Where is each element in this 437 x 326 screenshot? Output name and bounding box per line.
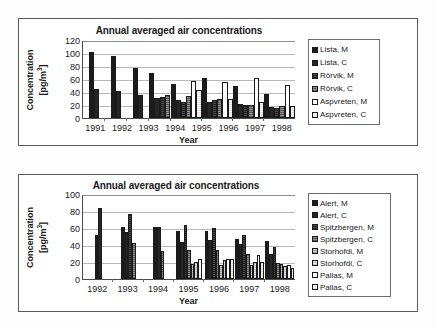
legend-swatch-icon — [312, 112, 318, 118]
bar — [116, 91, 121, 118]
y-axis-tick-label: 60 — [70, 224, 80, 234]
bars — [234, 195, 264, 279]
bars — [233, 41, 264, 118]
legend-label: Alert, C — [320, 211, 347, 220]
legend-swatch-icon — [312, 47, 318, 53]
x-axis-labels-bottom: 1992199319941995199619971998 — [82, 284, 295, 294]
x-axis-tick-label: 1991 — [82, 123, 109, 133]
legend-bottom: Alert, MAlert, CSpitzbergen, MSpitzberge… — [308, 193, 391, 297]
bar — [132, 243, 136, 279]
bars — [202, 41, 233, 118]
x-axis-title-bottom: Year — [82, 296, 295, 306]
legend-label: Alert, M — [320, 199, 348, 208]
legend-swatch-icon — [312, 99, 318, 105]
legend-item: Rörvik, M — [312, 69, 376, 82]
y-axis-tick-label: 20 — [70, 258, 80, 268]
legend-swatch-icon — [312, 60, 318, 66]
x-axis-labels-top: 19911992199319941995199619971998 — [82, 123, 295, 133]
bar-group — [144, 195, 174, 279]
x-axis-tick-label: 1992 — [109, 123, 136, 133]
legend-item: Alert, C — [312, 209, 387, 221]
legend-item: Aspvreten, C — [312, 108, 376, 121]
bar — [230, 259, 234, 279]
legend-swatch-icon — [312, 212, 318, 218]
x-axis-tick — [112, 279, 113, 282]
x-axis-tick-label: 1994 — [162, 123, 189, 133]
bar — [291, 268, 295, 279]
legend-label: Lista, C — [320, 58, 347, 67]
x-axis-tick-label: 1993 — [112, 284, 142, 294]
bar — [290, 106, 295, 118]
legend-item: Alert, M — [312, 197, 387, 209]
bar-group — [204, 195, 234, 279]
bar-groups — [83, 195, 295, 279]
legend-label: Storhofdi, M — [320, 247, 363, 256]
y-axis-tick-label: 20 — [70, 101, 80, 111]
bars — [149, 41, 171, 118]
legend-label: Aspvreten, C — [320, 110, 366, 119]
x-axis-tick-label: 1998 — [268, 123, 295, 133]
legend-item: Spitzbergen, M — [312, 221, 387, 233]
x-axis-tick — [203, 279, 204, 282]
x-axis-tick — [173, 279, 174, 282]
bar-group — [233, 41, 264, 118]
bar-group — [171, 41, 202, 118]
x-axis-tick — [201, 118, 202, 121]
bars — [264, 41, 295, 118]
legend-label: Lista, M — [320, 45, 348, 54]
x-axis-tick-label: 1996 — [204, 284, 234, 294]
y-axis-tick-label: 100 — [65, 190, 80, 200]
legend-item: Aspvreten, M — [312, 95, 376, 108]
y-axis-tick-label: 40 — [70, 241, 80, 251]
bar — [165, 95, 170, 118]
bar — [98, 208, 102, 279]
legend-label: Rörvik, C — [320, 84, 353, 93]
y-axis-tick-label: 100 — [65, 49, 80, 59]
y-axis-labels-top: 120100806040200 — [49, 41, 80, 119]
x-axis-tick-label: 1995 — [189, 123, 216, 133]
bars — [144, 195, 174, 279]
y-axis-tick-label: 0 — [75, 275, 80, 285]
legend-item: Pallas, C — [312, 281, 387, 293]
legend-swatch-icon — [312, 73, 318, 79]
bar-group — [174, 195, 204, 279]
bar-group — [127, 41, 149, 118]
x-axis-tick — [263, 118, 264, 121]
x-axis-tick — [143, 279, 144, 282]
bars — [265, 195, 295, 279]
legend-label: Spitzbergen, M — [320, 223, 374, 232]
x-axis-title-top: Year — [82, 135, 295, 145]
legend-swatch-icon — [312, 224, 318, 230]
legend-swatch-icon — [312, 272, 318, 278]
legend-label: Aspvreten, M — [320, 97, 367, 106]
bar-group — [234, 195, 264, 279]
bars — [83, 41, 105, 118]
bar — [161, 251, 165, 279]
x-axis-tick — [170, 118, 171, 121]
bar-group — [264, 41, 295, 118]
bar-group — [83, 41, 105, 118]
bars — [204, 195, 234, 279]
y-axis-tick-label: 80 — [70, 62, 80, 72]
x-axis-tick-label: 1997 — [234, 284, 264, 294]
bars — [171, 41, 202, 118]
x-axis-tick — [232, 118, 233, 121]
x-axis-tick-label: 1998 — [265, 284, 295, 294]
bar-group — [113, 195, 143, 279]
legend-swatch-icon — [312, 248, 318, 254]
legend-swatch-icon — [312, 284, 318, 290]
plot-area-top — [82, 41, 295, 119]
x-axis-tick — [148, 118, 149, 121]
y-axis-title-top: Concentration [pg/m3] — [25, 41, 48, 119]
legend-label: Pallas, M — [320, 271, 353, 280]
bars — [174, 195, 204, 279]
chart-title-top: Annual averaged air concentrations — [19, 25, 417, 36]
bar — [94, 89, 99, 118]
y-axis-tick-label: 60 — [70, 75, 80, 85]
bars — [105, 41, 127, 118]
bars — [127, 41, 149, 118]
legend-item: Storhofdi, M — [312, 245, 387, 257]
legend-label: Storhofdi, C — [320, 259, 362, 268]
bar — [260, 262, 264, 279]
y-axis-title-bottom: Concentration [pg/m3] — [25, 195, 48, 280]
